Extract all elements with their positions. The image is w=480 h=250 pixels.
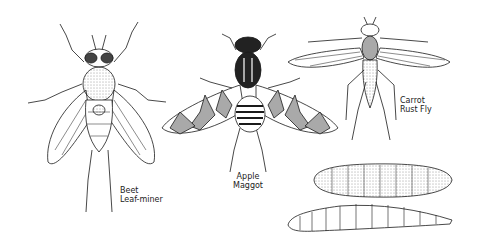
label-line-1: Beet [120,186,163,195]
illustration-svg [0,0,480,250]
label-line-1: Carrot [400,96,432,105]
beet-leaf-miner-drawing [28,22,166,212]
insect-illustration: Beet Leaf-miner Apple Maggot Carrot Rust… [0,0,480,250]
carrot-rust-fly-label: Carrot Rust Fly [400,96,432,114]
larva-drawing [288,204,452,231]
label-line-2: Maggot [220,181,276,190]
apple-maggot-label: Apple Maggot [220,172,276,190]
label-line-2: Leaf-miner [120,195,163,204]
pupa-drawing [314,164,452,197]
label-line-1: Apple [220,172,276,181]
label-line-2: Rust Fly [400,105,432,114]
beet-leaf-miner-label: Beet Leaf-miner [120,186,163,204]
